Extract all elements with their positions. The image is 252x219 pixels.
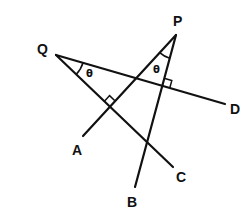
diagram-svg: θ θ Q P D A C B — [0, 0, 252, 219]
point-label-p: P — [173, 13, 182, 29]
point-label-c: C — [176, 169, 186, 185]
geometry-diagram: θ θ Q P D A C B — [0, 0, 252, 219]
theta-label-p: θ — [153, 64, 160, 75]
theta-label-q: θ — [86, 68, 93, 79]
point-label-q: Q — [37, 41, 48, 57]
point-label-b: B — [127, 194, 137, 210]
point-label-d: D — [230, 101, 240, 117]
point-label-a: A — [72, 142, 82, 158]
angle-arc-p — [160, 53, 170, 59]
right-angle-marker-1 — [104, 96, 115, 102]
angle-arc-q — [76, 63, 83, 75]
